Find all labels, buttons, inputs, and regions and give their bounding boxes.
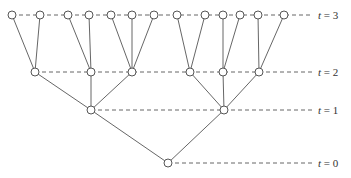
tree-node-t3-2 (64, 11, 72, 19)
tree-diagram: t = 3t = 2t = 1t = 0 (0, 0, 351, 178)
level-label-t1: t = 1 (318, 104, 338, 116)
tree-node-t2-5 (255, 68, 263, 76)
level-label-t0: t = 0 (318, 157, 339, 169)
tree-edge (168, 110, 224, 163)
tree-node-t3-4 (107, 11, 115, 19)
tree-edge (35, 72, 91, 110)
tree-edge (190, 15, 205, 72)
tree-node-t2-0 (31, 68, 39, 76)
tree-node-t2-1 (87, 68, 95, 76)
tree-edge (35, 15, 40, 72)
tree-node-t3-9 (219, 11, 227, 19)
tree-node-t3-6 (150, 11, 158, 19)
tree-node-t3-11 (254, 11, 262, 19)
tree-node-t1-1 (220, 106, 228, 114)
time-level-lines (12, 15, 312, 163)
tree-node-t3-7 (173, 11, 181, 19)
tree-edge (177, 15, 190, 72)
tree-edge (91, 110, 168, 163)
tree-node-t3-3 (85, 11, 93, 19)
tree-node-t3-10 (236, 11, 244, 19)
tree-edge (223, 15, 240, 72)
tree-node-t3-8 (201, 11, 209, 19)
tree-node-t2-2 (128, 68, 136, 76)
tree-nodes (8, 11, 288, 167)
tree-edge (89, 15, 91, 72)
tree-edge (132, 15, 154, 72)
tree-node-t2-4 (219, 68, 227, 76)
tree-edge (111, 15, 132, 72)
tree-node-t1-0 (87, 106, 95, 114)
time-level-labels: t = 3t = 2t = 1t = 0 (318, 9, 339, 169)
tree-edge (68, 15, 91, 72)
level-label-t2: t = 2 (318, 66, 338, 78)
tree-edges (12, 15, 284, 163)
tree-edge (259, 15, 284, 72)
tree-edge (224, 72, 259, 110)
tree-edge (223, 72, 224, 110)
tree-node-t2-3 (186, 68, 194, 76)
level-label-t3: t = 3 (318, 9, 339, 21)
tree-edge (190, 72, 224, 110)
tree-edge (12, 15, 35, 72)
tree-node-t3-5 (128, 11, 136, 19)
tree-edge (258, 15, 259, 72)
tree-node-t0-0 (164, 159, 172, 167)
tree-edge (91, 72, 132, 110)
tree-node-t3-12 (280, 11, 288, 19)
tree-node-t3-0 (8, 11, 16, 19)
tree-node-t3-1 (36, 11, 44, 19)
